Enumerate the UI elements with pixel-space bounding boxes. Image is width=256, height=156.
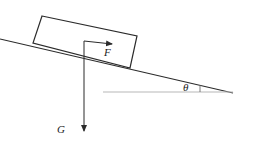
weight-label: G <box>57 124 65 135</box>
force-label: F <box>104 47 111 58</box>
force-arrow <box>84 41 112 44</box>
incline-surface-line <box>0 39 233 93</box>
block-rectangle <box>33 16 137 68</box>
diagram-canvas <box>0 0 256 156</box>
angle-label: θ <box>183 82 188 93</box>
inclined-plane-figure: F G θ <box>0 0 256 156</box>
